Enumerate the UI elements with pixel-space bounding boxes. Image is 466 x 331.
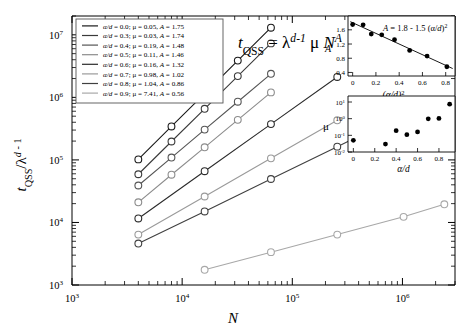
- x-axis-label: N: [227, 310, 239, 326]
- data-point: [135, 215, 142, 222]
- data-point: [168, 123, 175, 130]
- x-tick-label: 105: [285, 292, 300, 304]
- inset-bottom-data-point: [394, 128, 399, 133]
- data-point: [201, 266, 208, 273]
- inset-bottom-x-tick-label: 0.8: [435, 155, 444, 163]
- x-tick-label: 106: [395, 292, 410, 304]
- inset-bottom-y-tick-label: 10-1: [334, 131, 346, 140]
- inset-bottom-data-point: [415, 130, 420, 135]
- inset-top-data-point: [425, 54, 430, 59]
- data-point: [135, 156, 142, 163]
- inset-top-y-tick-label: 1.2: [336, 41, 345, 49]
- inset-top-y-tick-label: 1.6: [336, 26, 345, 34]
- y-tick-label: 105: [49, 154, 64, 166]
- legend-entry-label: α/d = 0.0; μ = 0.05, A = 1.75: [103, 23, 184, 31]
- series-line: [205, 204, 445, 269]
- y-tick-label: 107: [49, 29, 64, 41]
- data-point: [201, 168, 208, 175]
- legend-entry-label: α/d = 0.6; μ = 0.16, A = 1.32: [103, 61, 184, 69]
- data-point: [201, 126, 208, 133]
- inset-top-x-tick-label: 0.2: [372, 79, 381, 87]
- inset-bottom-data-point: [437, 116, 442, 121]
- data-point: [268, 70, 275, 77]
- legend-entry-label: α/d = 0.8; μ = 1.04, A = 0.86: [103, 80, 184, 88]
- y-axis-label: tQSS/λd - 1: [12, 138, 34, 191]
- data-point: [201, 105, 208, 112]
- x-tick-label: 104: [175, 292, 190, 304]
- data-point: [135, 240, 142, 247]
- data-point: [168, 171, 175, 178]
- inset-bottom-x-tick-label: 0: [352, 155, 356, 163]
- inset-bottom-y-tick-label: 100: [336, 115, 346, 124]
- data-point: [135, 199, 142, 206]
- data-point: [334, 231, 341, 238]
- y-tick-label: 104: [49, 216, 64, 228]
- data-point: [234, 73, 241, 80]
- inset-bottom-bg: [348, 96, 455, 152]
- data-point: [135, 171, 142, 178]
- inset-top-fit-label: A = 1.8 - 1.5 (α/d)2: [382, 23, 447, 33]
- inset-top-x-tick-label: 0: [351, 79, 355, 87]
- data-point: [268, 249, 275, 256]
- legend-entry-label: α/d = 0.3; μ = 0.03, A = 1.74: [103, 32, 184, 40]
- legend-entry-label: α/d = 0.7; μ = 0.98, A = 1.02: [103, 71, 184, 79]
- data-point: [234, 116, 241, 123]
- y-tick-label: 103: [49, 279, 64, 291]
- figure-container: 103104105106103104105106107NtQSS/λd - 1α…: [0, 0, 466, 331]
- inset-bottom-x-axis-label: α/d: [397, 164, 410, 174]
- legend-entry-label: α/d = 0.9; μ = 7.41, A = 0.56: [103, 90, 184, 98]
- inset-bottom-x-tick-label: 0.6: [413, 155, 422, 163]
- legend: α/d = 0.0; μ = 0.05, A = 1.75α/d = 0.3; …: [76, 19, 223, 103]
- data-point: [400, 213, 407, 220]
- inset-top-data-point: [444, 64, 449, 69]
- series-7: [201, 201, 447, 273]
- inset-top-y-axis-label: A: [324, 43, 332, 54]
- inset-top-data-point: [350, 22, 355, 27]
- inset-top-data-point: [369, 32, 374, 37]
- data-point: [201, 208, 208, 215]
- legend-entry-label: α/d = 0.5; μ = 0.11, A = 1.46: [103, 51, 184, 59]
- inset-top: 00.20.40.60.80.40.81.21.6A(α/d)2A = 1.8 …: [324, 16, 455, 101]
- inset-bottom-y-axis-label: μ: [323, 120, 329, 132]
- inset-top-x-tick-label: 0.4: [395, 79, 404, 87]
- inset-top-x-tick-label: 0.8: [441, 79, 450, 87]
- inset-top-x-tick-label: 0.6: [418, 79, 427, 87]
- inset-bottom: 00.20.40.60.810-210-1100101μα/d: [323, 96, 455, 174]
- inset-bottom-data-point: [351, 138, 356, 143]
- data-point: [168, 138, 175, 145]
- data-point: [135, 231, 142, 238]
- inset-top-data-point: [361, 22, 366, 27]
- inset-top-y-tick-label: 0.8: [336, 55, 345, 63]
- data-point: [135, 182, 142, 189]
- data-point: [268, 121, 275, 128]
- data-point: [234, 98, 241, 105]
- data-point: [441, 201, 448, 208]
- data-point: [168, 154, 175, 161]
- inset-bottom-data-point: [447, 102, 452, 107]
- inset-bottom-data-point: [426, 116, 431, 121]
- data-point: [268, 176, 275, 183]
- x-tick-label: 103: [65, 292, 80, 304]
- data-point: [234, 57, 241, 64]
- inset-top-data-point: [392, 37, 397, 42]
- y-tick-label: 106: [49, 91, 64, 103]
- inset-bottom-data-point: [383, 142, 388, 147]
- data-point: [268, 24, 275, 31]
- data-point: [201, 144, 208, 151]
- chart-canvas: 103104105106103104105106107NtQSS/λd - 1α…: [0, 0, 466, 331]
- inset-bottom-data-point: [404, 132, 409, 137]
- legend-entry-label: α/d = 0.4; μ = 0.19, A = 1.48: [103, 42, 184, 50]
- inset-top-data-point: [379, 32, 384, 37]
- series-5: [135, 117, 341, 238]
- inset-bottom-y-tick-label: 10-2: [334, 148, 346, 157]
- inset-top-y-tick-label: 0.4: [336, 69, 345, 77]
- inset-top-data-point: [407, 48, 412, 53]
- inset-bottom-x-tick-label: 0.2: [370, 155, 379, 163]
- inset-bottom-y-tick-label: 101: [336, 98, 346, 107]
- data-point: [201, 193, 208, 200]
- data-point: [268, 89, 275, 96]
- data-point: [268, 155, 275, 162]
- inset-bottom-x-tick-label: 0.4: [392, 155, 401, 163]
